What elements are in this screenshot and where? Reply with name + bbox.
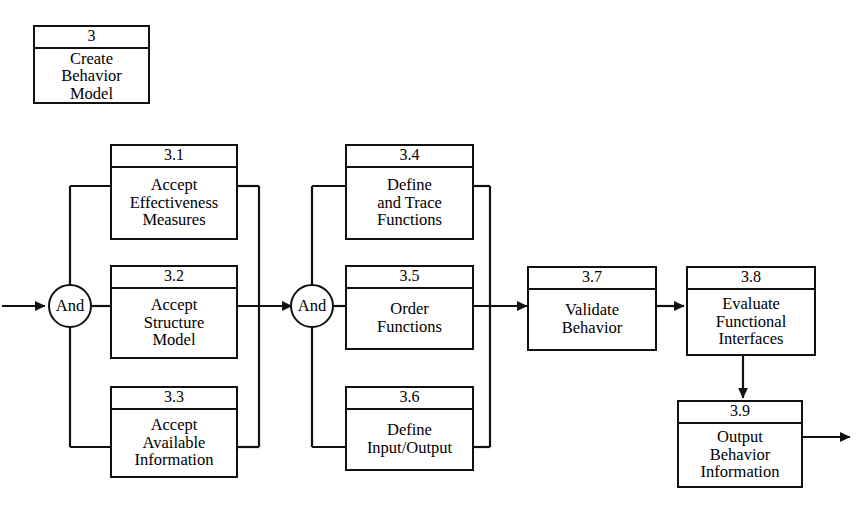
process-box-3-7[interactable]: 3.7 Validate Behavior xyxy=(527,266,657,351)
process-box-3-6-title: Define Input/Output xyxy=(347,410,472,469)
process-box-3-1-id: 3.1 xyxy=(112,146,236,168)
process-box-3-1[interactable]: 3.1 Accept Effectiveness Measures xyxy=(110,144,238,240)
process-box-3-5[interactable]: 3.5 Order Functions xyxy=(345,265,474,350)
process-box-3-9-title: Output Behavior Information xyxy=(679,424,801,486)
process-box-3-2[interactable]: 3.2 Accept Structure Model xyxy=(110,265,238,359)
process-box-3[interactable]: 3 Create Behavior Model xyxy=(33,25,150,104)
process-box-3-4-id: 3.4 xyxy=(347,146,472,168)
process-box-3-3-id: 3.3 xyxy=(112,388,236,410)
and-junction-1[interactable]: And xyxy=(48,284,92,328)
process-box-3-3[interactable]: 3.3 Accept Available Information xyxy=(110,386,238,478)
process-box-3-3-title: Accept Available Information xyxy=(112,410,236,476)
process-box-3-title: Create Behavior Model xyxy=(35,49,148,104)
process-box-3-8-id: 3.8 xyxy=(688,268,814,290)
behavior-model-diagram: 3 Create Behavior Model And And 3.1 Acce… xyxy=(0,0,864,511)
process-box-3-8-title: Evaluate Functional Interfaces xyxy=(688,290,814,354)
and-junction-1-label: And xyxy=(56,298,84,315)
process-box-3-4-title: Define and Trace Functions xyxy=(347,168,472,238)
process-box-3-9-id: 3.9 xyxy=(679,402,801,424)
process-box-3-4[interactable]: 3.4 Define and Trace Functions xyxy=(345,144,474,240)
process-box-3-5-title: Order Functions xyxy=(347,289,472,348)
process-box-3-8[interactable]: 3.8 Evaluate Functional Interfaces xyxy=(686,266,816,356)
and-junction-2-label: And xyxy=(298,298,326,315)
process-box-3-7-title: Validate Behavior xyxy=(529,290,655,349)
process-box-3-9[interactable]: 3.9 Output Behavior Information xyxy=(677,400,803,488)
process-box-3-1-title: Accept Effectiveness Measures xyxy=(112,168,236,238)
and-junction-2[interactable]: And xyxy=(290,284,334,328)
process-box-3-6-id: 3.6 xyxy=(347,388,472,410)
process-box-3-2-id: 3.2 xyxy=(112,267,236,289)
process-box-3-2-title: Accept Structure Model xyxy=(112,289,236,357)
process-box-3-5-id: 3.5 xyxy=(347,267,472,289)
process-box-3-6[interactable]: 3.6 Define Input/Output xyxy=(345,386,474,471)
process-box-3-7-id: 3.7 xyxy=(529,268,655,290)
process-box-3-id: 3 xyxy=(35,27,148,49)
